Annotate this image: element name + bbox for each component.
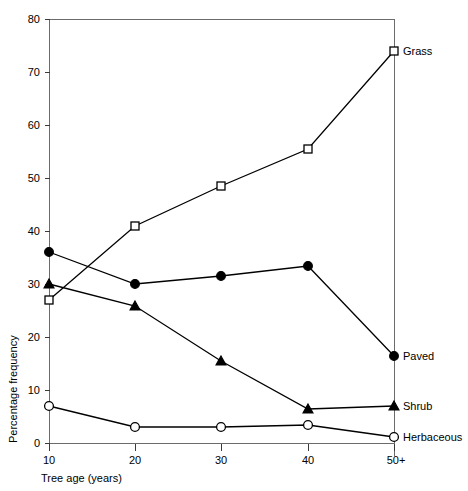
y-tick-label-70: 70 xyxy=(28,66,40,78)
y-tick-label-0: 0 xyxy=(34,437,40,449)
y-tick-label-40: 40 xyxy=(28,225,40,237)
y-tick-label-10: 10 xyxy=(28,384,40,396)
series-herbaceous: Herbaceous xyxy=(45,402,463,443)
y-tick-label-50: 50 xyxy=(28,172,40,184)
plot-frame xyxy=(50,20,395,456)
series-label-grass: Grass xyxy=(403,45,433,57)
marker-grass-20 xyxy=(131,222,139,230)
y-axis-title: Percentage frequency xyxy=(7,335,19,443)
series-grass: Grass xyxy=(45,45,433,304)
x-tick-label-20: 20 xyxy=(129,454,141,466)
x-tick-label-50plus: 50+ xyxy=(387,454,406,466)
marker-paved-40 xyxy=(304,262,313,271)
series-label-paved: Paved xyxy=(403,350,434,362)
y-tick-label-30: 30 xyxy=(28,278,40,290)
y-tick-label-60: 60 xyxy=(28,119,40,131)
x-tickmarks xyxy=(50,444,395,451)
marker-grass-40 xyxy=(304,145,312,153)
marker-paved-30 xyxy=(217,272,226,281)
line-chart: 0 10 20 30 40 50 60 70 80 10 20 30 40 50… xyxy=(0,0,468,491)
series-label-herbaceous: Herbaceous xyxy=(403,431,463,443)
series-paved: Paved xyxy=(45,248,435,362)
y-tick-labels: 0 10 20 30 40 50 60 70 80 xyxy=(28,13,40,449)
series-herbaceous-line xyxy=(49,406,394,437)
chart-container: 0 10 20 30 40 50 60 70 80 10 20 30 40 50… xyxy=(0,0,468,491)
x-tick-label-30: 30 xyxy=(215,454,227,466)
marker-paved-20 xyxy=(131,280,140,289)
x-tick-label-10: 10 xyxy=(43,454,55,466)
series-paved-line xyxy=(49,252,394,356)
x-axis-title: Tree age (years) xyxy=(41,472,122,484)
marker-herbaceous-50plus xyxy=(390,433,399,442)
marker-herbaceous-40 xyxy=(304,421,313,430)
marker-shrub-30 xyxy=(216,356,226,365)
x-tick-label-40: 40 xyxy=(302,454,314,466)
marker-paved-50plus xyxy=(390,352,399,361)
marker-shrub-10 xyxy=(44,279,54,288)
marker-herbaceous-30 xyxy=(217,423,226,432)
marker-grass-30 xyxy=(217,182,225,190)
x-tick-labels: 10 20 30 40 50+ xyxy=(43,454,405,466)
marker-grass-50plus xyxy=(390,47,398,55)
series-shrub: Shrub xyxy=(44,279,432,413)
y-tick-label-80: 80 xyxy=(28,13,40,25)
marker-grass-10 xyxy=(45,296,53,304)
y-tickmarks xyxy=(45,20,50,444)
marker-herbaceous-20 xyxy=(131,423,140,432)
marker-herbaceous-10 xyxy=(45,402,54,411)
y-tick-label-20: 20 xyxy=(28,331,40,343)
series-grass-line xyxy=(49,51,394,300)
marker-paved-10 xyxy=(45,248,54,257)
series-label-shrub: Shrub xyxy=(403,400,432,412)
